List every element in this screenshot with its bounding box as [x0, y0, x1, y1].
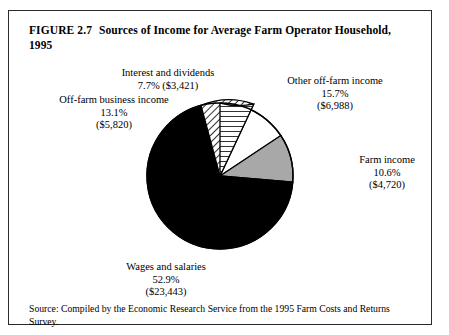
pie-label-amount: ($23,443)	[71, 286, 261, 299]
pie-label-percent: 7.7%	[138, 80, 160, 91]
pie-label-farm-income: Farm income 10.6% ($4,720)	[327, 154, 447, 192]
pie-label-amount: ($4,720)	[327, 179, 447, 192]
figure-frame: FIGURE 2.7Sources of Income for Average …	[8, 10, 432, 325]
pie-label-percent: 52.9%	[71, 274, 261, 287]
source-note: Source: Compiled by the Economic Researc…	[29, 303, 419, 328]
pie-label-name: Farm income	[327, 154, 447, 167]
pie-label-percent: 15.7%	[245, 88, 425, 101]
pie-label-name: Interest and dividends	[73, 67, 263, 80]
pie-label-name: Other off-farm income	[245, 75, 425, 88]
pie-chart: Interest and dividends 7.7% ($3,421) Off…	[9, 11, 431, 324]
pie-label-wages-and-salaries: Wages and salaries 52.9% ($23,443)	[71, 261, 261, 299]
pie-label-percent: 13.1%	[19, 107, 209, 120]
pie-label-other-off-farm-income: Other off-farm income 15.7% ($6,988)	[245, 75, 425, 113]
pie-label-amount: ($6,988)	[245, 100, 425, 113]
pie-label-interest-and-dividends: Interest and dividends 7.7% ($3,421)	[73, 67, 263, 92]
pie-label-amount: ($5,820)	[19, 119, 209, 132]
pie-label-name: Wages and salaries	[71, 261, 261, 274]
pie-label-percent: 10.6%	[327, 167, 447, 180]
pie-label-name: Off-farm business income	[19, 94, 209, 107]
pie-label-off-farm-business-income: Off-farm business income 13.1% ($5,820)	[19, 94, 209, 132]
pie-label-amount: ($3,421)	[162, 80, 198, 91]
